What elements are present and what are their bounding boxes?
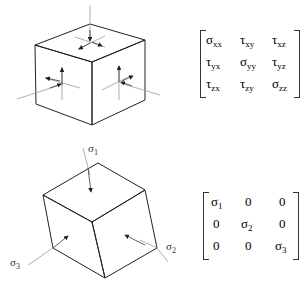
cell-r0-c1: 0 xyxy=(245,194,252,211)
sigma1-subscript: 1 xyxy=(94,148,98,157)
cell-r1-c2: τyz xyxy=(272,54,286,71)
cell-r0-c1: τxy xyxy=(240,32,254,49)
cell-r1-c1: σ2 xyxy=(241,216,253,233)
cell-r2-c2: σ3 xyxy=(275,238,287,255)
rotated-cube-right-face xyxy=(92,190,157,278)
cube-left-face xyxy=(35,45,92,125)
stress-tensor-matrix: σxx τxy τxz τyx σyy τyz τzx τzy σzz xyxy=(200,30,300,100)
general-stress-cube xyxy=(17,5,160,125)
principal-stress-matrix: σ1 0 0 0 σ2 0 0 0 σ3 xyxy=(203,192,299,262)
sigma3-subscript: 3 xyxy=(16,262,20,271)
cell-r1-c2: 0 xyxy=(279,216,286,233)
cell-r2-c1: τzy xyxy=(240,76,254,93)
sigma2-subscript: 2 xyxy=(172,246,176,255)
principal-stress-cube xyxy=(28,148,168,278)
cell-r0-c2: 0 xyxy=(279,194,286,211)
cube-right-face xyxy=(92,40,145,125)
rotated-cube-top-face xyxy=(43,163,145,222)
cell-r0-c2: τxz xyxy=(272,32,286,49)
right-bracket xyxy=(293,192,299,260)
right-face-stress-arrows xyxy=(102,66,160,100)
cell-r2-c2: σzz xyxy=(272,76,287,93)
left-face-stress-arrows xyxy=(17,67,80,100)
cell-r1-c0: 0 xyxy=(213,216,220,233)
left-bracket xyxy=(203,192,209,260)
cell-r2-c0: 0 xyxy=(213,238,220,255)
sigma3-arrow xyxy=(28,236,68,265)
cell-r1-c0: τyx xyxy=(206,54,220,71)
label-sigma2: σ2 xyxy=(166,240,176,255)
cell-r1-c1: σyy xyxy=(240,54,256,71)
cell-r0-c0: σxx xyxy=(206,32,222,49)
sigma2-arrow xyxy=(125,235,168,262)
right-bracket xyxy=(294,30,300,98)
cell-r2-c0: τzx xyxy=(206,76,220,93)
label-sigma1: σ1 xyxy=(88,142,98,157)
cell-r2-c1: 0 xyxy=(245,238,252,255)
cell-r0-c0: σ1 xyxy=(211,194,223,211)
label-sigma3: σ3 xyxy=(10,256,20,271)
